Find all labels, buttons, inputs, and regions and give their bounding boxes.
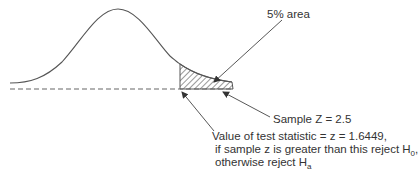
- normal-curve: [10, 9, 232, 83]
- critical-line2-text: if sample z is greater than this reject …: [215, 143, 411, 155]
- area-label: 5% area: [267, 8, 310, 21]
- ha-subscript: a: [307, 162, 311, 171]
- sample-z-label: Sample Z = 2.5: [273, 113, 351, 126]
- area-leader-line: [214, 20, 282, 82]
- sample-z-arrow: [223, 92, 270, 117]
- critical-value-line3: otherwise reject Ha: [215, 156, 312, 173]
- critical-value-line1: Value of test statistic = z = 1.6449,: [212, 130, 387, 143]
- critical-line3-text: otherwise reject H: [215, 156, 307, 168]
- critical-value-arrow: [182, 92, 214, 131]
